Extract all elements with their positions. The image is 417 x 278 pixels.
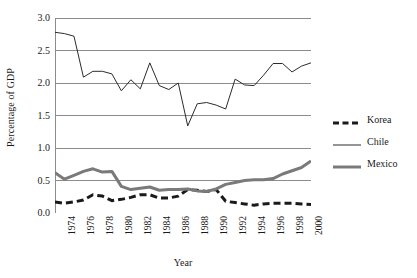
- x-axis-title: Year: [55, 257, 311, 268]
- x-tick-label: 1984: [163, 216, 173, 235]
- y-tick-label: 1.5: [22, 111, 50, 121]
- plot-svg: [55, 18, 311, 213]
- chart-figure: Percentage of GDP 0.00.51.01.52.02.53.0 …: [0, 0, 417, 278]
- y-tick-label: 2.5: [22, 46, 50, 56]
- x-tick-label: 1994: [258, 216, 268, 235]
- x-tick-label: 1992: [239, 216, 249, 235]
- x-tick-label: 1978: [106, 216, 116, 235]
- legend-swatch: [333, 158, 361, 168]
- y-tick-label: 1.0: [22, 143, 50, 153]
- legend-label: Chile: [367, 136, 389, 147]
- series-line-chile: [55, 32, 311, 126]
- y-axis-title: Percentage of GDP: [2, 0, 18, 215]
- y-tick-label: 0.5: [22, 176, 50, 186]
- plot-area: [55, 18, 311, 213]
- legend: KoreaChileMexico: [333, 108, 417, 174]
- x-tick-label: 1982: [144, 216, 154, 235]
- legend-swatch: [333, 114, 361, 124]
- x-tick-label: 1986: [182, 216, 192, 235]
- x-tick-label: 1988: [201, 216, 211, 235]
- x-tick-label: 1980: [125, 216, 135, 235]
- x-tick-label: 1998: [296, 216, 306, 235]
- y-axis-title-text: Percentage of GDP: [5, 68, 16, 147]
- x-tick-label: 1976: [87, 216, 97, 235]
- x-axis-title-text: Year: [174, 257, 192, 268]
- x-tick-label: 1996: [277, 216, 287, 235]
- legend-label: Korea: [367, 114, 391, 125]
- y-tick-label: 0.0: [22, 208, 50, 218]
- x-tick-label: 2000: [315, 216, 325, 235]
- legend-item-chile: Chile: [333, 130, 417, 152]
- y-tick-label: 3.0: [22, 13, 50, 23]
- series-line-korea: [55, 190, 311, 206]
- x-tick-label: 1974: [68, 216, 78, 235]
- y-axis-tick-labels: 0.00.51.01.52.02.53.0: [18, 0, 50, 278]
- legend-item-korea: Korea: [333, 108, 417, 130]
- legend-label: Mexico: [367, 158, 398, 169]
- y-tick-label: 2.0: [22, 78, 50, 88]
- legend-item-mexico: Mexico: [333, 152, 417, 174]
- x-tick-label: 1990: [220, 216, 230, 235]
- legend-swatch: [333, 136, 361, 146]
- x-axis-tick-labels: 1974197619781980198219841986198819901992…: [55, 216, 311, 258]
- series-line-mexico: [55, 161, 311, 192]
